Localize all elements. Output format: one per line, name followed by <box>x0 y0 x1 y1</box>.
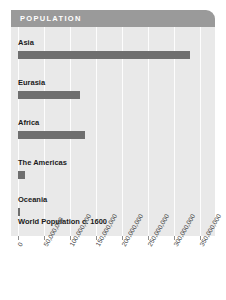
bar <box>18 51 190 59</box>
bar-label: Eurasia <box>18 78 45 87</box>
bar-label: Asia <box>18 38 34 47</box>
bar-label: Oceania <box>18 195 47 204</box>
x-axis-tick-labels: 050,000,000100,000,000150,000,000200,000… <box>0 240 226 300</box>
bar <box>18 208 20 216</box>
bar-label: Africa <box>18 118 39 127</box>
gridline <box>200 27 201 236</box>
page-title: POPULATION <box>20 14 82 23</box>
population-chart-figure: POPULATION AsiaEurasiaAfricaThe Americas… <box>0 0 226 300</box>
plot-area: AsiaEurasiaAfricaThe AmericasOceaniaWorl… <box>11 27 215 236</box>
bar <box>18 171 25 179</box>
bar-label: The Americas <box>18 158 67 167</box>
bar <box>18 91 80 99</box>
chart-header-band: POPULATION <box>11 10 215 27</box>
bar <box>18 131 85 139</box>
axis-tick-label: 0 <box>16 241 25 248</box>
